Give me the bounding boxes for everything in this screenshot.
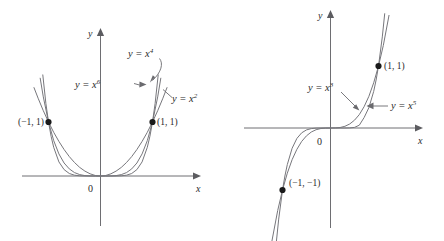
- left-chart-even-powers: y = x4 y = x6 y = x2 (−1, 1) (1, 1) 0 x …: [18, 28, 201, 226]
- label-y-equals-x2: y = x2: [171, 92, 198, 104]
- right-x-axis-arrowhead: [415, 124, 423, 131]
- point-marker-neg1-neg1: [279, 187, 285, 193]
- right-pointers: [341, 92, 388, 111]
- label-y-equals-x4: y = x4: [127, 47, 154, 59]
- point-marker-1-1: [375, 63, 381, 69]
- power-functions-figure: y = x4 y = x6 y = x2 (−1, 1) (1, 1) 0 x …: [0, 0, 444, 241]
- right-x-axis-label: x: [417, 135, 423, 146]
- left-x-axis-arrowhead: [193, 172, 201, 179]
- label-y-equals-x3: y = x3: [307, 81, 334, 93]
- right-axes: [244, 10, 423, 228]
- point-label-neg1-1: (−1, 1): [18, 117, 44, 128]
- right-origin-label: 0: [317, 136, 322, 147]
- label-y-equals-x6: y = x6: [74, 78, 101, 90]
- x3-leader-line: [341, 92, 357, 108]
- left-y-axis-arrowhead: [97, 28, 104, 36]
- left-axes: [22, 28, 201, 226]
- point-marker-neg1-1: [45, 119, 51, 125]
- right-chart-odd-powers: y = x3 y = x5 (1, 1) (−1, −1) 0 x y: [244, 10, 423, 241]
- point-marker-1-1: [149, 119, 155, 125]
- right-y-axis-arrowhead: [327, 10, 334, 18]
- left-pointers: [134, 59, 172, 98]
- right-y-axis-label: y: [317, 10, 323, 21]
- x6-leader-line: [134, 84, 140, 86]
- x6-leader-arrowhead: [139, 82, 146, 88]
- left-x-axis-label: x: [195, 183, 201, 194]
- left-origin-label: 0: [88, 183, 93, 194]
- point-label-neg1-neg1: (−1, −1): [289, 178, 320, 189]
- label-y-equals-x5: y = x5: [390, 99, 417, 111]
- point-label-1-1: (1, 1): [384, 61, 405, 72]
- point-label-1-1: (1, 1): [157, 117, 178, 128]
- figure-canvas: y = x4 y = x6 y = x2 (−1, 1) (1, 1) 0 x …: [0, 0, 444, 241]
- left-y-axis-label: y: [87, 28, 93, 39]
